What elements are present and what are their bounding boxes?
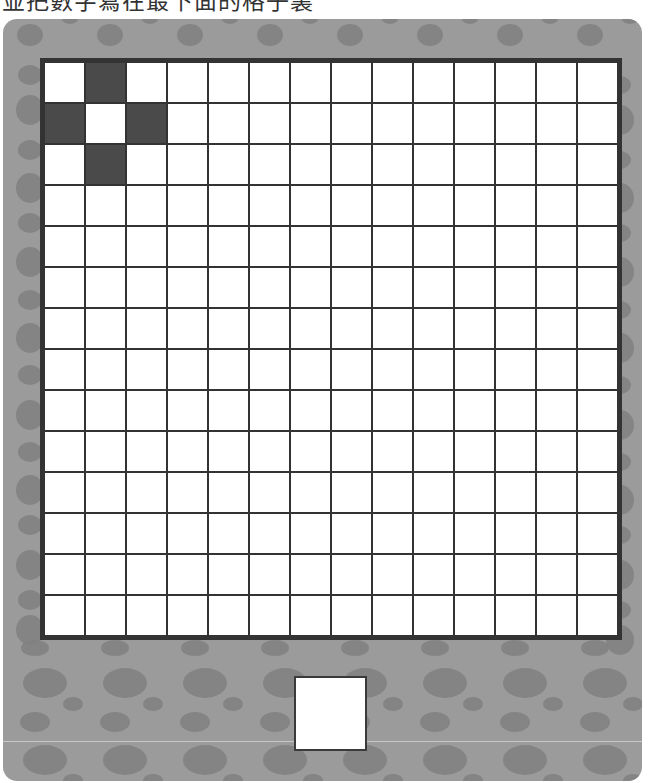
- grid-cell[interactable]: [127, 63, 166, 102]
- grid-cell[interactable]: [496, 145, 535, 184]
- grid-cell[interactable]: [373, 63, 412, 102]
- grid-cell[interactable]: [414, 432, 453, 471]
- grid-cell[interactable]: [168, 473, 207, 512]
- grid-cell[interactable]: [127, 268, 166, 307]
- grid-cell[interactable]: [209, 186, 248, 225]
- grid-cell[interactable]: [127, 309, 166, 348]
- grid-cell[interactable]: [496, 596, 535, 635]
- grid-cell[interactable]: [250, 391, 289, 430]
- grid-cell[interactable]: [127, 514, 166, 553]
- grid-cell[interactable]: [45, 63, 84, 102]
- grid-cell[interactable]: [455, 514, 494, 553]
- grid-cell[interactable]: [127, 473, 166, 512]
- grid-cell[interactable]: [332, 391, 371, 430]
- grid-cell[interactable]: [250, 63, 289, 102]
- grid-cell[interactable]: [209, 555, 248, 594]
- grid-cell[interactable]: [373, 104, 412, 143]
- grid-cell[interactable]: [537, 514, 576, 553]
- grid-cell[interactable]: [45, 596, 84, 635]
- grid-cell[interactable]: [537, 268, 576, 307]
- grid-cell[interactable]: [455, 555, 494, 594]
- grid-cell[interactable]: [127, 145, 166, 184]
- grid-cell[interactable]: [250, 514, 289, 553]
- grid-cell[interactable]: [537, 104, 576, 143]
- answer-box[interactable]: [294, 676, 367, 751]
- grid-cell[interactable]: [209, 350, 248, 389]
- grid-cell[interactable]: [496, 432, 535, 471]
- grid-cell[interactable]: [537, 145, 576, 184]
- grid-cell[interactable]: [45, 145, 84, 184]
- grid-cell[interactable]: [414, 473, 453, 512]
- grid-cell[interactable]: [291, 514, 330, 553]
- grid-cell[interactable]: [332, 514, 371, 553]
- grid-cell[interactable]: [45, 104, 84, 143]
- grid-cell[interactable]: [168, 350, 207, 389]
- grid-cell[interactable]: [414, 145, 453, 184]
- grid-cell[interactable]: [168, 268, 207, 307]
- grid-cell[interactable]: [578, 104, 617, 143]
- grid-cell[interactable]: [414, 227, 453, 266]
- grid-cell[interactable]: [373, 350, 412, 389]
- grid-cell[interactable]: [537, 555, 576, 594]
- grid-cell[interactable]: [250, 555, 289, 594]
- grid-cell[interactable]: [332, 186, 371, 225]
- grid-cell[interactable]: [127, 227, 166, 266]
- grid-cell[interactable]: [373, 268, 412, 307]
- grid-cell[interactable]: [86, 309, 125, 348]
- grid-cell[interactable]: [250, 227, 289, 266]
- grid-cell[interactable]: [127, 104, 166, 143]
- grid-cell[interactable]: [291, 432, 330, 471]
- grid-cell[interactable]: [496, 227, 535, 266]
- grid-cell[interactable]: [86, 268, 125, 307]
- grid-cell[interactable]: [332, 309, 371, 348]
- grid-cell[interactable]: [578, 391, 617, 430]
- grid-cell[interactable]: [537, 350, 576, 389]
- grid-cell[interactable]: [332, 227, 371, 266]
- grid-cell[interactable]: [291, 391, 330, 430]
- grid-cell[interactable]: [578, 596, 617, 635]
- grid-cell[interactable]: [168, 104, 207, 143]
- grid-cell[interactable]: [250, 268, 289, 307]
- grid-cell[interactable]: [168, 63, 207, 102]
- grid-cell[interactable]: [455, 104, 494, 143]
- grid-cell[interactable]: [414, 63, 453, 102]
- grid-cell[interactable]: [45, 391, 84, 430]
- grid-cell[interactable]: [373, 432, 412, 471]
- grid-cell[interactable]: [578, 145, 617, 184]
- grid-cell[interactable]: [332, 145, 371, 184]
- grid-cell[interactable]: [414, 391, 453, 430]
- grid-cell[interactable]: [291, 596, 330, 635]
- grid-cell[interactable]: [578, 309, 617, 348]
- grid-cell[interactable]: [332, 350, 371, 389]
- grid-cell[interactable]: [455, 145, 494, 184]
- grid-cell[interactable]: [373, 555, 412, 594]
- grid-cell[interactable]: [455, 186, 494, 225]
- grid-cell[interactable]: [291, 145, 330, 184]
- grid-cell[interactable]: [250, 432, 289, 471]
- grid-cell[interactable]: [332, 473, 371, 512]
- grid-cell[interactable]: [45, 186, 84, 225]
- grid-cell[interactable]: [209, 391, 248, 430]
- grid-cell[interactable]: [537, 309, 576, 348]
- grid-cell[interactable]: [168, 145, 207, 184]
- grid-cell[interactable]: [86, 104, 125, 143]
- grid-cell[interactable]: [45, 432, 84, 471]
- grid-cell[interactable]: [455, 596, 494, 635]
- grid-cell[interactable]: [209, 309, 248, 348]
- grid-cell[interactable]: [291, 186, 330, 225]
- grid-cell[interactable]: [250, 145, 289, 184]
- grid-cell[interactable]: [291, 63, 330, 102]
- grid-cell[interactable]: [86, 350, 125, 389]
- grid-cell[interactable]: [332, 268, 371, 307]
- grid-cell[interactable]: [45, 473, 84, 512]
- grid-cell[interactable]: [127, 350, 166, 389]
- grid-cell[interactable]: [168, 309, 207, 348]
- grid-cell[interactable]: [373, 391, 412, 430]
- grid-cell[interactable]: [86, 432, 125, 471]
- grid-cell[interactable]: [578, 432, 617, 471]
- grid-cell[interactable]: [414, 514, 453, 553]
- grid-cell[interactable]: [496, 309, 535, 348]
- grid-cell[interactable]: [86, 227, 125, 266]
- grid-cell[interactable]: [86, 186, 125, 225]
- grid-cell[interactable]: [291, 473, 330, 512]
